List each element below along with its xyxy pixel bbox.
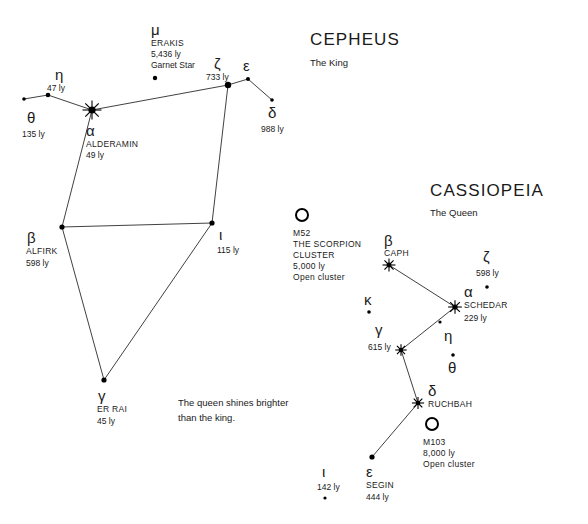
constellation-line xyxy=(248,79,272,100)
constellation-line xyxy=(48,95,92,110)
star-marker xyxy=(369,454,374,459)
constellation-line xyxy=(401,350,418,403)
star-greek-label: β xyxy=(27,229,36,246)
star-greek-label: κ xyxy=(364,291,372,308)
constellation-line xyxy=(212,85,228,223)
star-distance: 733 ly xyxy=(206,72,229,82)
constellation-epithet: The King xyxy=(310,57,348,68)
constellation-name: CASSIOPEIA xyxy=(430,181,544,200)
open-cluster-icon xyxy=(296,209,308,221)
star-distance: 115 ly xyxy=(217,245,240,255)
star-greek-label: ι xyxy=(322,463,325,480)
deep-sky-object-label-line: 8,000 ly xyxy=(423,448,456,458)
star-distance: 988 ly xyxy=(261,124,284,134)
star-proper-name: ALFIRK xyxy=(26,246,58,256)
star-greek-label: ζ xyxy=(483,248,490,265)
star-greek-label: ε xyxy=(366,463,373,480)
star-greek-label: θ xyxy=(448,359,456,376)
star-distance: 598 ly xyxy=(26,258,49,268)
star-cep-epsilon: ε xyxy=(243,57,250,81)
deep-sky-object-m52: M52THE SCORPIONCLUSTER5,000 lyOpen clust… xyxy=(293,209,361,282)
star-cep-gamma: γER RAI45 ly xyxy=(97,377,127,426)
star-proper-name: RUCHBAH xyxy=(428,399,472,409)
star-greek-label: ι xyxy=(219,226,222,243)
star-distance: 47 ly xyxy=(47,83,66,93)
star-distance: 49 ly xyxy=(86,150,105,160)
star-cas-alpha: αSCHEDAR229 ly xyxy=(448,283,508,323)
star-cep-beta: βALFIRK598 ly xyxy=(26,224,65,268)
star-greek-label: θ xyxy=(27,109,35,126)
open-cluster-icon xyxy=(426,418,438,430)
deep-sky-object-label-line: M103 xyxy=(423,437,445,447)
star-greek-label: ε xyxy=(243,57,250,74)
star-cep-zeta: ζ733 ly xyxy=(206,55,231,88)
star-proper-name: ALDERAMIN xyxy=(86,139,138,149)
star-proper-name: ER RAI xyxy=(97,404,127,414)
star-chart: αALDERAMIN49 lyη47 lyθ135 lyμERAKIS5,436… xyxy=(0,0,588,524)
star-distance: 5,436 ly xyxy=(151,49,182,59)
star-marker xyxy=(209,220,214,225)
constellation-title-cepheus: CEPHEUSThe King xyxy=(310,30,400,68)
star-marker xyxy=(438,320,441,323)
constellation-line xyxy=(104,223,212,380)
star-distance: 615 ly xyxy=(368,342,391,352)
constellation-name: CEPHEUS xyxy=(310,30,400,49)
star-cas-beta: βCAPH xyxy=(383,232,409,271)
deep-sky-object-label-line: 5,000 ly xyxy=(293,261,326,271)
star-marker xyxy=(246,77,250,81)
constellation-line xyxy=(372,403,418,457)
star-greek-label: η xyxy=(55,66,63,83)
constellation-titles-layer: CEPHEUSThe KingCASSIOPEIAThe Queen xyxy=(310,30,544,218)
star-cas-gamma: γ615 ly xyxy=(368,321,407,356)
star-marker xyxy=(46,93,51,98)
star-cas-eta: η xyxy=(438,320,452,344)
star-marker xyxy=(153,76,157,80)
star-marker xyxy=(59,224,64,229)
star-distance: 45 ly xyxy=(97,416,116,426)
star-proper-name: ERAKIS xyxy=(151,38,184,48)
star-marker xyxy=(101,377,106,382)
constellation-line xyxy=(62,223,212,227)
star-distance: 135 ly xyxy=(22,129,45,139)
constellation-line xyxy=(92,85,228,110)
star-cep-iota: ι115 ly xyxy=(209,220,239,255)
sky-canvas: αALDERAMIN49 lyη47 lyθ135 lyμERAKIS5,436… xyxy=(0,0,588,524)
star-distance: 142 ly xyxy=(317,482,340,492)
deep-sky-object-label-line: Open cluster xyxy=(423,459,475,469)
star-greek-label: μ xyxy=(151,21,160,38)
constellation-line xyxy=(62,227,104,380)
star-cep-mu: μERAKIS5,436 lyGarnet Star xyxy=(151,21,195,80)
star-greek-label: γ xyxy=(375,321,383,338)
star-marker xyxy=(225,82,231,88)
constellation-line xyxy=(24,95,48,99)
star-greek-label: δ xyxy=(428,382,436,399)
star-cas-iota: ι142 ly xyxy=(317,463,340,500)
star-cep-theta: θ135 ly xyxy=(22,97,45,139)
star-marker xyxy=(451,353,455,357)
star-greek-label: α xyxy=(86,122,95,139)
star-marker xyxy=(22,97,26,101)
star-greek-label: η xyxy=(444,327,452,344)
star-cep-eta: η47 ly xyxy=(46,66,66,97)
star-distance: 598 ly xyxy=(476,268,499,278)
star-proper-name: SCHEDAR xyxy=(464,300,508,310)
constellation-title-cassiopeia: CASSIOPEIAThe Queen xyxy=(430,181,544,218)
caption-line: than the king. xyxy=(178,412,235,423)
star-distance: 444 ly xyxy=(366,492,389,502)
star-cas-delta: δRUCHBAH xyxy=(412,382,472,409)
caption-queen-brighter: The queen shines brighterthan the king. xyxy=(178,397,288,423)
star-proper-name: CAPH xyxy=(384,248,409,258)
star-marker xyxy=(485,285,489,289)
star-cas-epsilon: εSEGIN444 ly xyxy=(366,454,394,502)
captions-layer: The queen shines brighterthan the king. xyxy=(178,397,288,423)
constellation-epithet: The Queen xyxy=(430,207,478,218)
star-cep-alpha: αALDERAMIN49 ly xyxy=(83,101,139,161)
star-marker xyxy=(367,310,371,314)
star-greek-label: γ xyxy=(98,387,106,404)
star-proper-name: SEGIN xyxy=(366,480,394,490)
star-note: Garnet Star xyxy=(151,60,195,70)
deep-sky-object-label-line: THE SCORPION xyxy=(293,239,361,249)
star-marker xyxy=(270,98,274,102)
constellation-line xyxy=(389,265,455,307)
deep-sky-object-label-line: Open cluster xyxy=(293,272,345,282)
